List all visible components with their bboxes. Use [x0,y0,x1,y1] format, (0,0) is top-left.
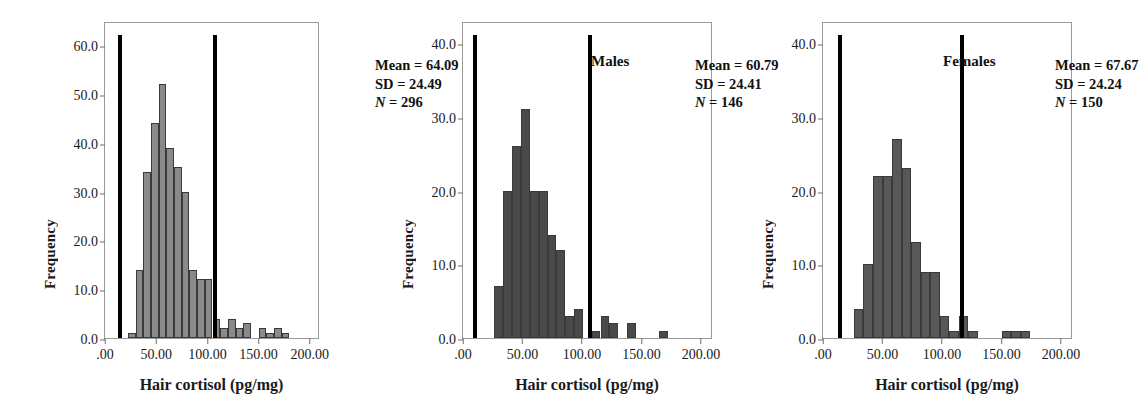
y-axis-label: Frequency [400,82,417,289]
x-axis-tick: 50.00 [140,338,172,363]
y-axis-tick: 20.0 [432,185,464,201]
histogram-panel-females: Frequency0.010.020.030.040.0.0050.00100.… [730,0,1100,408]
histogram-bar [182,192,190,338]
plot-area: 0.010.020.030.040.0.0050.00100.00150.002… [822,22,1072,339]
histogram-bar [949,331,959,338]
histogram-bar [159,84,167,338]
histogram-bar [854,309,864,338]
stat-n-value: = 150 [1065,94,1102,110]
x-axis-tick: 200.00 [291,338,330,363]
histogram-bar [236,328,244,338]
histogram-bar [940,316,950,338]
histogram-bar [259,328,267,338]
x-axis-tick: 100.00 [563,338,602,363]
reference-line [213,35,217,338]
histogram-bar [274,328,282,338]
histogram-bar [659,331,668,338]
y-axis-tick: 10.0 [792,258,824,274]
histogram-bar [1002,331,1012,338]
x-axis-tick: 100.00 [188,338,227,363]
histogram-bar [174,167,182,338]
reference-line [960,35,964,338]
histogram-bar [197,279,205,338]
histogram-bar [136,270,144,338]
histogram-bar [512,146,521,338]
histogram-bar [609,323,618,338]
histogram-bar [863,264,873,338]
y-axis-tick: 50.0 [74,88,106,104]
y-axis-tick: 10.0 [74,283,106,299]
x-axis-tick: .00 [454,338,472,363]
stat-n-symbol: N [1055,94,1065,110]
histogram-bar [128,333,136,338]
x-axis-tick: 150.00 [239,338,278,363]
panel-title: Females [943,53,995,70]
histogram-bar [592,331,601,338]
histogram-bar [565,316,574,338]
stat-mean: Mean = 67.67 [1055,56,1139,75]
histogram-bar [911,242,921,338]
reference-line [588,35,592,338]
x-axis-tick: 50.00 [507,338,539,363]
y-axis-tick: 30.0 [432,111,464,127]
x-axis-tick: 200.00 [1042,338,1081,363]
histogram-bar [902,168,912,338]
y-axis-tick: 10.0 [432,258,464,274]
histogram-bar [1021,331,1031,338]
y-axis-tick: 40.0 [792,37,824,53]
histogram-bar [166,148,174,338]
histogram-bar [151,123,159,338]
y-axis-label: Frequency [760,82,777,289]
plot-area: 0.010.020.030.040.050.060.0.0050.00100.0… [104,22,319,339]
panel-title: Males [591,53,629,70]
x-axis-tick: .00 [814,338,832,363]
histogram-bar [220,328,228,338]
reference-line [473,35,477,338]
stat-n-symbol: N [695,94,705,110]
y-axis-tick: 40.0 [74,137,106,153]
histogram-bar [1011,331,1021,338]
stat-sd: SD = 24.24 [1055,75,1139,94]
histogram-bar [143,172,151,338]
y-axis-tick: 30.0 [74,186,106,202]
histogram-panel-total: Frequency0.010.020.030.040.050.060.0.005… [0,0,380,408]
y-axis-tick: 30.0 [792,111,824,127]
reference-line [838,35,842,338]
histogram-bar [548,235,557,338]
histogram-bar [539,191,548,338]
stats-annotation: Mean = 67.67SD = 24.24N = 150 [1055,56,1139,112]
histogram-bar [503,191,512,338]
histogram-panel-males: Frequency0.010.020.030.040.0.0050.00100.… [370,0,740,408]
histogram-bar [574,309,583,338]
y-axis-tick: 20.0 [792,185,824,201]
histogram-bar [282,333,290,338]
y-axis-tick: 60.0 [74,39,106,55]
plot-area: 0.010.020.030.040.0.0050.00100.00150.002… [462,22,712,339]
histogram-bar [601,316,610,338]
histogram-bar [189,270,197,338]
histogram-bar [521,109,530,338]
histogram-bar [892,139,902,338]
y-axis-tick: 40.0 [432,37,464,53]
stat-n: N = 150 [1055,93,1139,112]
histogram-bar [243,323,251,338]
histogram-bar [205,279,213,338]
x-axis-tick: 50.00 [867,338,899,363]
histogram-bar [873,176,883,338]
x-axis-label: Hair cortisol (pg/mg) [730,376,1102,394]
x-axis-tick: 200.00 [682,338,721,363]
histogram-bar [627,323,636,338]
y-axis-label: Frequency [42,82,59,289]
histogram-bar [266,333,274,338]
histogram-bar [556,250,565,338]
x-axis-label: Hair cortisol (pg/mg) [370,376,742,394]
histogram-bar [228,319,236,339]
x-axis-tick: 150.00 [622,338,661,363]
reference-line [118,35,122,338]
histogram-bar [530,191,539,338]
x-axis-tick: 100.00 [923,338,962,363]
x-axis-tick: 150.00 [982,338,1021,363]
histogram-bar [883,176,893,338]
histogram-bar [930,272,940,338]
